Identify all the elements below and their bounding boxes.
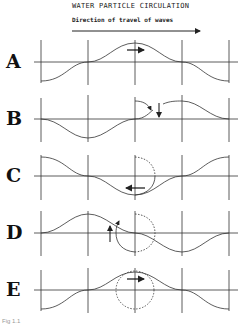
panel-d: [34, 211, 238, 256]
panel-c: [34, 155, 238, 200]
wave-diagram: [0, 0, 241, 329]
panel-a: [34, 40, 238, 85]
panel-e: [34, 268, 238, 313]
panel-b: [34, 95, 238, 142]
